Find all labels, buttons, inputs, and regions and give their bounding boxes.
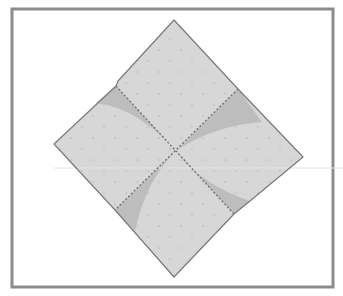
origami-diagram: [0, 0, 343, 296]
paper: [54, 20, 343, 277]
